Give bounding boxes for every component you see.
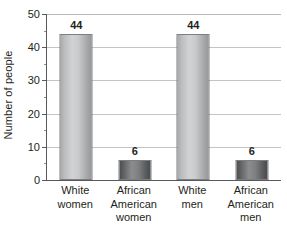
y-axis-tick-label: 30 — [16, 74, 40, 86]
bar-series: 446446 — [47, 14, 281, 180]
x-axis-label-line: African — [222, 184, 281, 198]
bar-value-label: 6 — [132, 145, 138, 157]
y-axis-tick-label: 20 — [16, 108, 40, 120]
x-axis-category-label: Whitewomen — [46, 184, 105, 211]
x-axis-label-line: men — [222, 211, 281, 225]
bar-value-label: 6 — [249, 145, 255, 157]
y-axis-title-text: Number of people — [2, 50, 14, 139]
x-axis-label-line: women — [105, 211, 164, 225]
x-axis-label-line: White — [163, 184, 222, 198]
x-axis-label-line: White — [46, 184, 105, 198]
x-axis-category-label: AfricanAmericanmen — [222, 184, 281, 225]
x-axis-label-line: African — [105, 184, 164, 198]
x-axis-label-line: American — [105, 198, 164, 212]
x-axis-category-label: Whitemen — [163, 184, 222, 211]
bar[interactable] — [235, 160, 268, 180]
bar-value-label: 44 — [70, 19, 82, 31]
bar-chart-figure: Number of people 01020304050 446446 Whit… — [0, 0, 287, 238]
x-axis-label-line: American — [222, 198, 281, 212]
y-axis-tick-labels: 01020304050 — [16, 8, 40, 188]
bar-value-label: 44 — [187, 19, 199, 31]
x-axis-label-line: women — [46, 198, 105, 212]
bar-slot: 44 — [47, 14, 106, 180]
x-axis-label-line: men — [163, 198, 222, 212]
bar-slot: 44 — [164, 14, 223, 180]
bar-slot: 6 — [223, 14, 282, 180]
x-axis-category-label: AfricanAmericanwomen — [105, 184, 164, 225]
y-axis-tick-label: 40 — [16, 41, 40, 53]
y-axis-title: Number of people — [0, 0, 16, 190]
bar[interactable] — [177, 34, 210, 180]
y-axis-tick-label: 0 — [16, 174, 40, 186]
bar[interactable] — [60, 34, 93, 180]
y-axis-tick-label: 50 — [16, 8, 40, 20]
bar[interactable] — [118, 160, 151, 180]
plot-area: 446446 — [46, 14, 281, 181]
bar-slot: 6 — [106, 14, 165, 180]
x-axis-category-labels: WhitewomenAfricanAmericanwomenWhitemenAf… — [46, 184, 280, 238]
y-axis-tick-label: 10 — [16, 141, 40, 153]
